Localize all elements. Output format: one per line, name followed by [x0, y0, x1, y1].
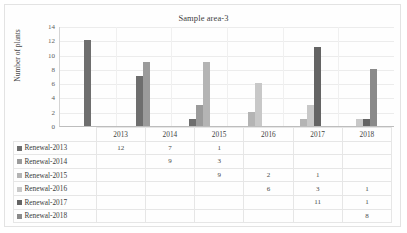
bar-cluster [116, 27, 172, 126]
plot-area [59, 27, 394, 127]
bar [203, 62, 210, 126]
plot-container: Number of plants 02468101214 [5, 27, 402, 135]
table-cell: 8 [342, 209, 391, 223]
legend-label: Renewal-2018 [25, 211, 68, 220]
table-corner-cell [14, 128, 97, 142]
table-cell [145, 195, 194, 209]
table-row: Renewal-20188 [14, 209, 392, 223]
table-cell: 3 [195, 155, 244, 169]
table-cell [244, 195, 293, 209]
legend-entry[interactable]: Renewal-2016 [14, 182, 97, 196]
category-separator [283, 27, 284, 126]
legend-entry[interactable]: Renewal-2017 [14, 195, 97, 209]
table-cell [96, 182, 145, 196]
table-cell: 1 [293, 168, 342, 182]
bar [300, 119, 307, 126]
legend-entry[interactable]: Renewal-2018 [14, 209, 97, 223]
y-tick-label: 10 [48, 52, 55, 59]
table-cell [293, 141, 342, 155]
bar-cluster [171, 27, 227, 126]
category-separator [171, 27, 172, 126]
data-table-container: 201320142015201620172018Renewal-20131271… [13, 127, 392, 223]
table-cell: 1 [342, 182, 391, 196]
table-cell [96, 209, 145, 223]
table-cell: 7 [145, 141, 194, 155]
legend-swatch-icon [17, 187, 22, 192]
y-tick-label: 4 [52, 95, 56, 102]
bar [255, 83, 262, 126]
table-cell: 6 [244, 182, 293, 196]
bar [356, 119, 363, 126]
table-cell [293, 155, 342, 169]
legend-label: Renewal-2013 [25, 143, 68, 152]
y-tick-label: 2 [52, 109, 56, 116]
table-cell [195, 209, 244, 223]
table-cell [195, 195, 244, 209]
bar [196, 105, 203, 126]
table-row: Renewal-20131271 [14, 141, 392, 155]
table-row: Renewal-2017111 [14, 195, 392, 209]
table-cell [342, 141, 391, 155]
table-cell: 1 [342, 195, 391, 209]
table-cell [145, 182, 194, 196]
chart-title: Sample area-3 [5, 13, 402, 23]
bar [143, 62, 150, 126]
table-cell [145, 209, 194, 223]
bar-cluster [227, 27, 283, 126]
legend-label: Renewal-2014 [25, 157, 68, 166]
table-cell [145, 168, 194, 182]
category-separator [338, 27, 339, 126]
table-cell [342, 155, 391, 169]
table-cell [244, 155, 293, 169]
legend-swatch-icon [17, 146, 22, 151]
table-column-header: 2017 [293, 128, 342, 142]
legend-swatch-icon [17, 173, 22, 178]
legend-label: Renewal-2017 [25, 198, 68, 207]
table-column-header: 2013 [96, 128, 145, 142]
legend-entry[interactable]: Renewal-2014 [14, 155, 97, 169]
legend-label: Renewal-2016 [25, 184, 68, 193]
table-cell [293, 209, 342, 223]
bar [136, 76, 143, 126]
table-cell: 1 [195, 141, 244, 155]
bar [314, 47, 321, 126]
table-cell [96, 195, 145, 209]
bar [248, 112, 255, 126]
y-tick-label: 12 [48, 38, 55, 45]
y-axis-ticks: 02468101214 [35, 27, 57, 127]
table-cell: 9 [145, 155, 194, 169]
y-tick-label: 8 [52, 66, 56, 73]
legend-entry[interactable]: Renewal-2013 [14, 141, 97, 155]
legend-swatch-icon [17, 214, 22, 219]
table-cell: 2 [244, 168, 293, 182]
table-column-header: 2014 [145, 128, 194, 142]
legend-swatch-icon [17, 200, 22, 205]
legend-entry[interactable]: Renewal-2015 [14, 168, 97, 182]
category-separator [227, 27, 228, 126]
table-cell: 11 [293, 195, 342, 209]
bar [307, 105, 314, 126]
table-cell [96, 155, 145, 169]
bar-cluster [283, 27, 339, 126]
data-table: 201320142015201620172018Renewal-20131271… [13, 127, 392, 223]
table-cell: 12 [96, 141, 145, 155]
bar [189, 119, 196, 126]
category-separator [116, 27, 117, 126]
table-cell: 3 [293, 182, 342, 196]
table-cell: 9 [195, 168, 244, 182]
table-row: Renewal-2015921 [14, 168, 392, 182]
bar-cluster [338, 27, 394, 126]
table-column-header: 2018 [342, 128, 391, 142]
table-column-header: 2015 [195, 128, 244, 142]
table-column-header: 2016 [244, 128, 293, 142]
bar-cluster [60, 27, 116, 126]
table-row: Renewal-201493 [14, 155, 392, 169]
table-cell [96, 168, 145, 182]
y-tick-label: 6 [52, 81, 56, 88]
legend-label: Renewal-2015 [25, 171, 68, 180]
bar [370, 69, 377, 126]
legend-swatch-icon [17, 159, 22, 164]
table-cell [342, 168, 391, 182]
table-header-row: 201320142015201620172018 [14, 128, 392, 142]
chart-frame: Sample area-3 Number of plants 024681012… [4, 4, 401, 227]
